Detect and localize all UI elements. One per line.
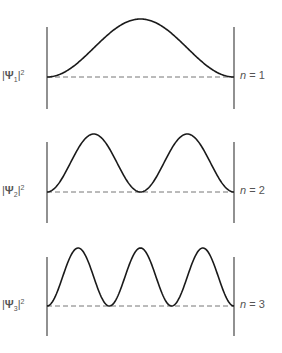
- psi2-label: |Ψ2|2: [2, 184, 24, 196]
- wavefunction-diagram: |Ψ1|2 n = 1 |Ψ2|2 n = 2 |Ψ3|2 n = 3: [0, 0, 282, 353]
- n1-label: n = 1: [240, 69, 265, 81]
- probability-curve-n1: [47, 19, 234, 77]
- n2-label: n = 2: [240, 184, 265, 196]
- probability-curve-n3: [47, 248, 234, 306]
- psi1-label: |Ψ1|2: [2, 69, 24, 81]
- probability-curve-n2: [47, 134, 234, 192]
- n3-label: n = 3: [240, 298, 265, 310]
- psi3-label: |Ψ3|2: [2, 298, 24, 310]
